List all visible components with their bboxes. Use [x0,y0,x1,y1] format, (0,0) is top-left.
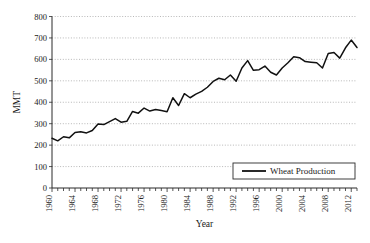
svg-text:1996: 1996 [251,195,261,212]
svg-text:1984: 1984 [182,194,192,212]
svg-text:600: 600 [34,54,47,64]
svg-text:800: 800 [34,12,47,22]
svg-text:2000: 2000 [274,195,284,212]
svg-text:1980: 1980 [159,195,169,212]
y-axis-title: MMT [12,91,22,114]
legend-label-wheat-production: Wheat Production [270,166,336,176]
svg-text:1992: 1992 [228,195,238,212]
svg-text:500: 500 [34,76,47,86]
svg-text:100: 100 [34,162,47,172]
svg-text:1968: 1968 [90,195,100,212]
svg-text:1988: 1988 [205,195,215,212]
svg-text:400: 400 [34,97,47,107]
svg-text:300: 300 [34,119,47,129]
x-axis-title: Year [196,219,214,229]
svg-text:1964: 1964 [67,194,77,212]
x-axis-tick-labels: 1960196419681972197619801984198819921996… [44,194,353,212]
svg-text:700: 700 [34,33,47,43]
svg-text:1960: 1960 [44,195,54,212]
svg-text:1976: 1976 [136,195,146,212]
svg-text:2004: 2004 [297,194,307,212]
svg-text:1972: 1972 [113,195,123,212]
series-line-wheat-production [52,40,357,141]
x-axis-ticks-group [52,188,357,192]
legend: Wheat Production [233,163,355,179]
y-axis-tick-labels: 8007006005004003002001000 [34,12,47,194]
gridlines-group [52,17,357,167]
svg-text:200: 200 [34,140,47,150]
svg-text:2008: 2008 [320,195,330,212]
chart-canvas: 8007006005004003002001000 19601964196819… [0,0,370,243]
wheat-production-chart: 8007006005004003002001000 19601964196819… [0,0,370,243]
svg-text:0: 0 [43,183,47,193]
svg-text:2012: 2012 [343,195,353,212]
